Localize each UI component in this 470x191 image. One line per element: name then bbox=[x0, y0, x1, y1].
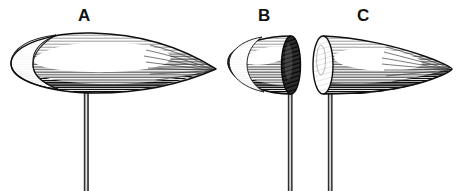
specimen-b-body bbox=[220, 28, 310, 98]
specimen-c-body bbox=[310, 28, 460, 98]
figure-illustration: A B C bbox=[0, 0, 470, 191]
mounting-pin-a bbox=[84, 90, 88, 191]
specimen-label-c: C bbox=[357, 7, 369, 24]
mounting-pin-b bbox=[288, 91, 292, 191]
specimen-label-a: A bbox=[78, 7, 90, 24]
mounting-pin-c bbox=[328, 91, 332, 191]
specimen-c-cut-face bbox=[313, 36, 333, 94]
specimen-b-cut-face bbox=[282, 36, 301, 94]
figure-drawing-canvas bbox=[0, 0, 470, 191]
specimen-label-b: B bbox=[258, 7, 270, 24]
